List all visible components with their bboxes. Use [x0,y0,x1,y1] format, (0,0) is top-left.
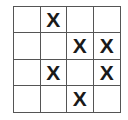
cell-r0-c0[interactable] [14,7,41,33]
cell-r3-c2[interactable]: X [67,86,94,112]
cell-r1-c2[interactable]: X [67,33,94,59]
cell-r2-c3[interactable]: X [94,60,121,86]
cell-r3-c3[interactable] [94,86,121,112]
cell-r2-c0[interactable] [14,60,41,86]
cell-r0-c3[interactable] [94,7,121,33]
cell-r1-c1[interactable] [41,33,68,59]
cell-r3-c1[interactable] [41,86,68,112]
game-board: X X X X X X [13,6,121,113]
cell-r0-c1[interactable]: X [41,7,68,33]
cell-r3-c0[interactable] [14,86,41,112]
cell-r0-c2[interactable] [67,7,94,33]
cell-r2-c2[interactable] [67,60,94,86]
cell-r2-c1[interactable]: X [41,60,68,86]
cell-r1-c3[interactable]: X [94,33,121,59]
cell-r1-c0[interactable] [14,33,41,59]
